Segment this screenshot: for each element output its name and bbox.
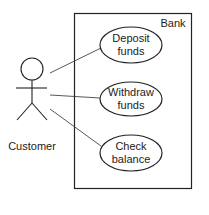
use-case-line: funds (100, 99, 162, 112)
use-case-label-check: Check balance (100, 140, 162, 166)
use-case-line: Deposit (100, 32, 162, 45)
actor-label: Customer (2, 140, 62, 153)
use-case-line: balance (100, 153, 162, 166)
use-case-line: funds (100, 45, 162, 58)
use-case-label-deposit: Deposit funds (100, 32, 162, 58)
use-case-line: Withdraw (100, 86, 162, 99)
actor-figure (16, 58, 47, 120)
use-case-line: Check (100, 140, 162, 153)
system-label: Bank (158, 17, 188, 30)
use-case-diagram: Bank Deposit funds Withdraw funds Check … (0, 0, 209, 215)
associations (50, 48, 101, 146)
use-case-label-withdraw: Withdraw funds (100, 86, 162, 112)
